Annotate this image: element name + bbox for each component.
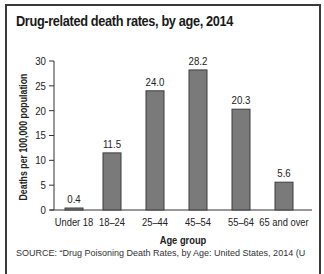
bar [189,70,207,210]
x-tick-label: 45–54 [185,216,211,228]
bar [146,91,164,210]
value-label: 28.2 [189,55,208,67]
y-tick-label: 10 [35,155,46,167]
x-tick-label: Under 18 [55,216,94,228]
value-label: 24.0 [146,76,165,88]
x-tick-label: 65 and over [259,216,309,228]
y-tick-label: 0 [41,204,47,216]
value-label: 0.4 [67,193,81,205]
bar [65,208,83,210]
bar [275,182,293,210]
bar [103,153,121,210]
y-axis-label: Deaths per 100,000 population [17,73,29,200]
x-axis-label: Age group [160,234,207,246]
y-tick-label: 30 [35,55,46,67]
x-tick-label: 25–44 [142,216,168,228]
source-note: SOURCE: “Drug Poisoning Death Rates, by … [16,248,305,258]
bar [232,109,250,210]
y-tick-label: 15 [35,130,46,142]
y-tick-label: 20 [35,105,46,117]
x-tick-label: 18–24 [99,216,125,228]
value-label: 20.3 [232,95,251,107]
y-tick-label: 5 [41,180,47,192]
x-tick-label: 55–64 [228,216,254,228]
value-label: 5.6 [277,168,291,180]
y-tick-label: 25 [35,80,46,92]
value-label: 11.5 [103,138,121,150]
